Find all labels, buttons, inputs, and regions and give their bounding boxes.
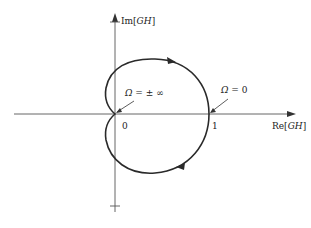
real-axis-label-prefix: Re[ xyxy=(272,121,288,131)
omega-infinity-pointer-arrow-icon xyxy=(116,108,122,113)
omega-infinity-value: = ± ∞ xyxy=(132,88,163,98)
diagram-graphics xyxy=(0,0,311,228)
real-axis-label-var: GH xyxy=(288,121,303,131)
imag-axis-label-suffix: ] xyxy=(152,16,156,26)
imag-axis-label: Im[GH] xyxy=(121,17,155,26)
real-axis-arrow-icon xyxy=(287,111,296,117)
imag-axis-label-var: GH xyxy=(137,16,152,26)
curve-direction-arrow-icon xyxy=(176,163,185,170)
omega-infinity-annotation: Ω = ± ∞ xyxy=(125,89,164,98)
omega-zero-annotation: Ω = 0 xyxy=(221,86,247,95)
imag-axis-arrow-icon xyxy=(112,13,118,22)
unit-point-label: 1 xyxy=(212,122,218,131)
omega-zero-value: = 0 xyxy=(228,85,247,95)
real-axis-label-suffix: ] xyxy=(303,121,307,131)
nyquist-diagram: Im[GH] Re[GH] 0 1 Ω = ± ∞ Ω = 0 xyxy=(0,0,311,228)
imag-axis-label-prefix: Im[ xyxy=(121,16,137,26)
nyquist-curve xyxy=(105,59,209,173)
real-axis-label: Re[GH] xyxy=(272,122,306,131)
origin-label: 0 xyxy=(122,122,128,131)
